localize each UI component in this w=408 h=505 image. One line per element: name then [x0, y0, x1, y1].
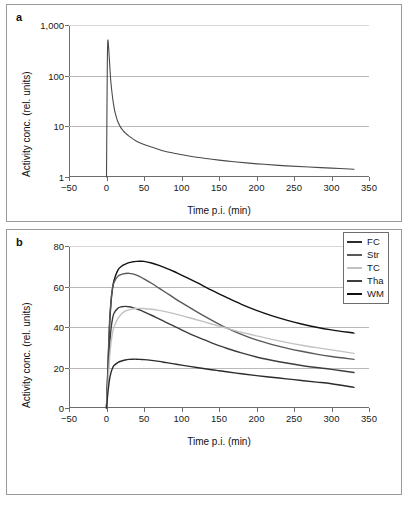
x-tick-mark: [294, 177, 295, 181]
x-tick-label: 300: [324, 182, 340, 193]
x-tick-label: 350: [361, 413, 377, 424]
legend-item-tha: Tha: [347, 274, 384, 287]
x-tick-label: 150: [211, 413, 227, 424]
legend-item-wm: WM: [347, 287, 384, 300]
panel-a-letter: a: [16, 11, 22, 23]
x-tick-label: 250: [286, 182, 302, 193]
panel-b-legend: FCStrTCThaWM: [343, 232, 389, 304]
x-tick-mark: [257, 408, 258, 412]
panel-a-curves: [69, 25, 369, 177]
x-tick-mark: [219, 408, 220, 412]
y-tick-label: 40: [53, 322, 64, 333]
x-tick-mark: [144, 177, 145, 181]
series-line-fc: [107, 359, 355, 408]
legend-item-str: Str: [347, 248, 384, 261]
panel-b-y-axis-label: Activity conc. (rel. units): [21, 302, 32, 408]
legend-swatch-str: [347, 254, 362, 256]
x-tick-label: 250: [286, 413, 302, 424]
panel-a-plot-area: 1101001,000 −50050100150200250300350: [69, 25, 369, 177]
x-tick-label: −50: [61, 182, 77, 193]
x-tick-mark: [107, 177, 108, 181]
legend-swatch-fc: [347, 241, 362, 243]
panel-a: a Activity conc. (rel. units) 1101001,00…: [6, 4, 402, 222]
series-line-tha: [107, 306, 355, 408]
legend-label: WM: [367, 289, 384, 299]
legend-label: Tha: [367, 276, 383, 286]
panel-b-plot-area: 020406080 −50050100150200250300350: [69, 246, 369, 408]
x-tick-label: 200: [249, 182, 265, 193]
y-tick-label: 10: [53, 121, 64, 132]
x-tick-mark: [257, 177, 258, 181]
series-line-arterial plasma input function: [107, 40, 355, 177]
y-tick-label: 0: [59, 403, 64, 414]
x-tick-mark: [144, 408, 145, 412]
figure-container: a Activity conc. (rel. units) 1101001,00…: [0, 0, 408, 505]
panel-b-letter: b: [16, 236, 23, 248]
x-tick-mark: [69, 177, 70, 181]
legend-label: FC: [367, 237, 380, 247]
panel-b-x-axis-label: Time p.i. (min): [69, 436, 369, 447]
y-tick-label: 80: [53, 241, 64, 252]
panel-a-x-axis-label: Time p.i. (min): [69, 205, 369, 216]
y-tick-label: 60: [53, 281, 64, 292]
x-tick-label: 0: [104, 182, 109, 193]
legend-item-fc: FC: [347, 235, 384, 248]
x-tick-label: −50: [61, 413, 77, 424]
x-tick-label: 300: [324, 413, 340, 424]
x-tick-label: 150: [211, 182, 227, 193]
y-tick-label: 20: [53, 362, 64, 373]
x-tick-mark: [369, 408, 370, 412]
x-tick-mark: [294, 408, 295, 412]
panel-b-curves: [69, 246, 369, 408]
x-tick-label: 200: [249, 413, 265, 424]
legend-label: Str: [367, 250, 379, 260]
legend-label: TC: [367, 263, 380, 273]
x-tick-label: 100: [174, 413, 190, 424]
x-tick-mark: [332, 408, 333, 412]
x-tick-mark: [182, 408, 183, 412]
x-tick-mark: [69, 408, 70, 412]
x-tick-label: 0: [104, 413, 109, 424]
y-tick-label: 1: [59, 172, 64, 183]
series-line-str: [107, 273, 355, 408]
legend-swatch-tha: [347, 280, 362, 282]
y-tick-label: 1,000: [40, 20, 64, 31]
panel-b: b Activity conc. (rel. units) 020406080 …: [6, 229, 402, 495]
panel-a-y-axis-label: Activity conc. (rel. units): [21, 71, 32, 177]
x-tick-mark: [219, 177, 220, 181]
x-tick-label: 50: [139, 413, 150, 424]
x-tick-mark: [369, 177, 370, 181]
x-tick-label: 350: [361, 182, 377, 193]
legend-item-tc: TC: [347, 261, 384, 274]
series-line-tc: [107, 308, 355, 408]
x-tick-mark: [182, 177, 183, 181]
legend-swatch-tc: [347, 267, 362, 269]
legend-swatch-wm: [347, 293, 362, 295]
y-tick-label: 100: [48, 70, 64, 81]
x-tick-label: 50: [139, 182, 150, 193]
x-tick-mark: [332, 177, 333, 181]
series-line-wm: [107, 261, 355, 408]
x-tick-label: 100: [174, 182, 190, 193]
